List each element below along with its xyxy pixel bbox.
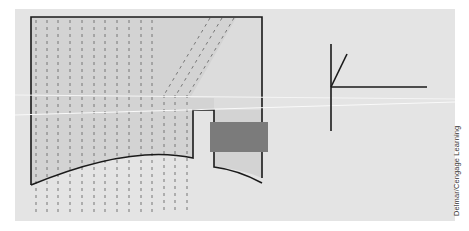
dark-block bbox=[210, 122, 268, 152]
credit-label: Delmar/Cengage Learning bbox=[452, 126, 461, 216]
diagram-figure bbox=[0, 0, 469, 231]
